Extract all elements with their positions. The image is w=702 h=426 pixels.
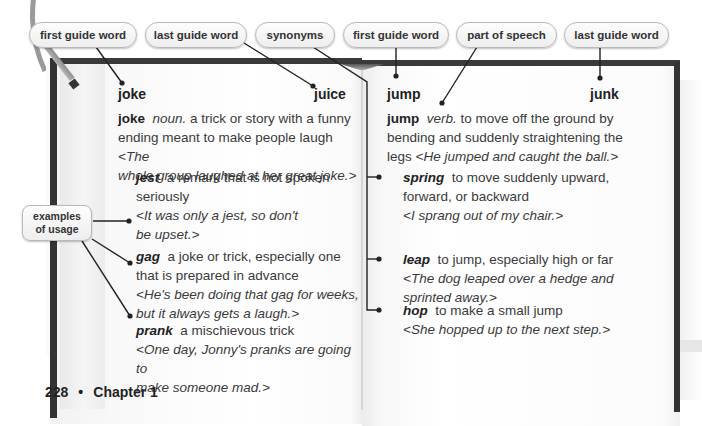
definition-line2: bending and suddenly straightening the (387, 130, 623, 145)
chapter-label: Chapter 1 (93, 384, 158, 400)
definition-line3: legs (387, 149, 412, 164)
callout-examples-line2: of usage (23, 223, 91, 236)
callout-left-last-guide-word: last guide word (145, 22, 247, 48)
synonym-example-line1: <It was only a jest, so don't (136, 208, 298, 223)
example: <He jumped and caught the ball.> (416, 149, 619, 164)
synonym-example-line1: <The dog leaped over a hedge and (403, 271, 614, 286)
footer-separator: • (78, 384, 83, 400)
synonym-def-line1: a joke or trick, especially one (168, 249, 341, 264)
synonym-def-line2: that is prepared in advance (136, 268, 299, 283)
page-number: 228 (45, 384, 68, 400)
synonym-example-line1: <He's been doing that gag for weeks, (136, 287, 359, 302)
callout-synonyms: synonyms (255, 22, 335, 48)
part-of-speech: verb. (427, 111, 457, 126)
synonym-def-line1: a remark that is not spoken (167, 170, 330, 185)
synonym-def-line1: a mischievous trick (180, 323, 294, 338)
synonym-leap: leap to jump, especially high or far <Th… (403, 250, 653, 307)
definition-line2: ending meant to make people laugh (118, 130, 333, 145)
synonym-example-line2: be upset.> (136, 227, 199, 242)
synonym-word: jest (136, 170, 159, 185)
synonym-word: leap (403, 252, 430, 267)
headword: joke (118, 111, 145, 126)
synonym-def-line1: to jump, especially high or far (438, 252, 614, 267)
example-start: <The (118, 149, 149, 164)
synonym-def-line2: forward, or backward (403, 189, 529, 204)
entry-jump: jump verb. to move off the ground by ben… (387, 109, 647, 166)
right-first-guide-word: jump (387, 86, 420, 102)
synonym-word: prank (136, 323, 173, 338)
definition-line1: to move off the ground by (461, 111, 614, 126)
synonym-gag: gag a joke or trick, especially one that… (136, 247, 366, 323)
synonym-example-line1: <I sprang out of my chair.> (403, 208, 563, 223)
synonym-def-line1: to move suddenly upward, (452, 170, 610, 185)
right-page-outer-shadow (680, 340, 702, 352)
left-first-guide-word: joke (118, 86, 146, 102)
synonym-jest: jest a remark that is not spoken serious… (136, 168, 366, 244)
headword: jump (387, 111, 419, 126)
callout-right-first-guide-word: first guide word (343, 22, 449, 48)
right-page-outer-edge (680, 80, 702, 400)
synonym-hop: hop to make a small jump <She hopped up … (403, 301, 653, 339)
synonym-def-line2: seriously (136, 189, 189, 204)
left-last-guide-word: juice (314, 86, 346, 102)
synonym-example-line1: <One day, Jonny's pranks are going to (136, 342, 351, 376)
definition-line1: a trick or story with a funny (190, 111, 351, 126)
callout-left-first-guide-word: first guide word (29, 22, 137, 48)
page-footer: 228•Chapter 1 (45, 384, 158, 400)
callout-examples-of-usage: examples of usage (22, 205, 92, 241)
synonym-prank: prank a mischievous trick <One day, Jonn… (136, 321, 366, 397)
callout-right-last-guide-word: last guide word (564, 22, 669, 48)
synonym-def-line1: to make a small jump (435, 303, 563, 318)
synonym-spring: spring to move suddenly upward, forward,… (403, 168, 653, 225)
synonym-word: spring (403, 170, 444, 185)
part-of-speech: noun. (153, 111, 187, 126)
callout-examples-line1: examples (23, 210, 91, 223)
synonym-example-line2: but it always gets a laugh.> (136, 306, 299, 321)
synonym-example-line1: <She hopped up to the next step.> (403, 322, 610, 337)
callout-part-of-speech: part of speech (456, 22, 557, 48)
synonym-word: gag (136, 249, 160, 264)
right-last-guide-word: junk (590, 86, 619, 102)
synonym-word: hop (403, 303, 428, 318)
